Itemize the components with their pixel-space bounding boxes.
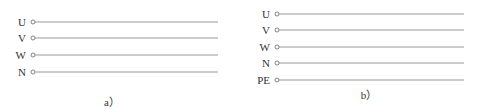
diagram-a: U V W N a）: [16, 16, 218, 108]
terminal-icon: [31, 53, 35, 57]
line-label: N: [262, 57, 270, 69]
line-label: V: [18, 32, 26, 44]
terminal-icon: [275, 28, 279, 32]
caption-a: a）: [104, 96, 120, 108]
line-label: PE: [257, 74, 270, 86]
line-label: W: [16, 49, 27, 61]
line-label: U: [18, 16, 26, 28]
line-u: U: [262, 8, 464, 20]
terminal-icon: [275, 12, 279, 16]
line-label: N: [18, 66, 26, 78]
terminal-icon: [31, 20, 35, 24]
terminal-icon: [31, 70, 35, 74]
line-label: V: [262, 24, 270, 36]
line-w: W: [260, 41, 464, 53]
line-pe: PE: [257, 74, 464, 86]
line-n: N: [262, 57, 464, 69]
terminal-icon: [275, 78, 279, 82]
line-v: V: [262, 24, 464, 36]
line-n: N: [18, 66, 218, 78]
terminal-icon: [275, 45, 279, 49]
line-label: U: [262, 8, 270, 20]
terminal-icon: [31, 36, 35, 40]
terminal-icon: [275, 61, 279, 65]
wiring-diagrams: U V W N a） U V: [0, 0, 477, 112]
line-w: W: [16, 49, 218, 61]
line-label: W: [260, 41, 271, 53]
diagram-b: U V W N PE b）: [257, 8, 464, 101]
caption-b: b）: [361, 89, 378, 101]
line-v: V: [18, 32, 218, 44]
line-u: U: [18, 16, 218, 28]
